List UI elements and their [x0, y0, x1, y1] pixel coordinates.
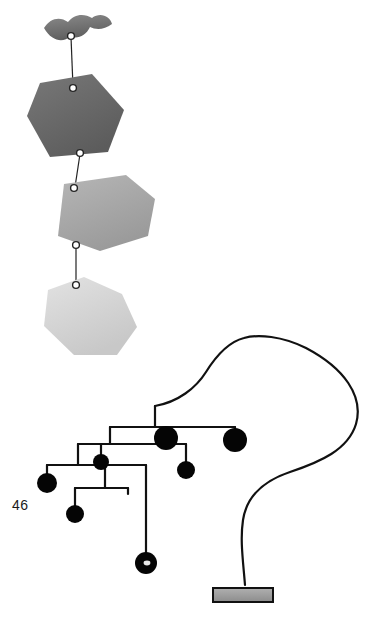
disc-ringed-bottom-hole — [144, 561, 151, 566]
disc-mid-small — [93, 454, 109, 470]
ring-connector-mid — [77, 150, 84, 157]
ring-connector-lower-b — [73, 242, 80, 249]
page-number: 46 — [12, 498, 29, 512]
disc-large-right — [223, 428, 247, 452]
hanging-mobile — [27, 15, 155, 355]
ring-connector-upper — [70, 85, 77, 92]
mobile-base-block — [213, 588, 273, 602]
ring-connector-lower-a — [71, 185, 78, 192]
disc-right-small — [177, 461, 195, 479]
disc-large-upper — [154, 426, 178, 450]
disc-left-outer — [37, 473, 57, 493]
ring-connector-bottom — [73, 282, 80, 289]
mobile-base — [213, 588, 273, 602]
lower-heptagon-plate — [44, 277, 137, 355]
artwork-illustration — [0, 0, 391, 621]
page-canvas: 46 — [0, 0, 391, 621]
top-winged-plate — [44, 15, 112, 40]
ring-connector-top — [68, 33, 75, 40]
standing-mobile-discs — [37, 426, 247, 574]
disc-lower-left — [66, 505, 84, 523]
